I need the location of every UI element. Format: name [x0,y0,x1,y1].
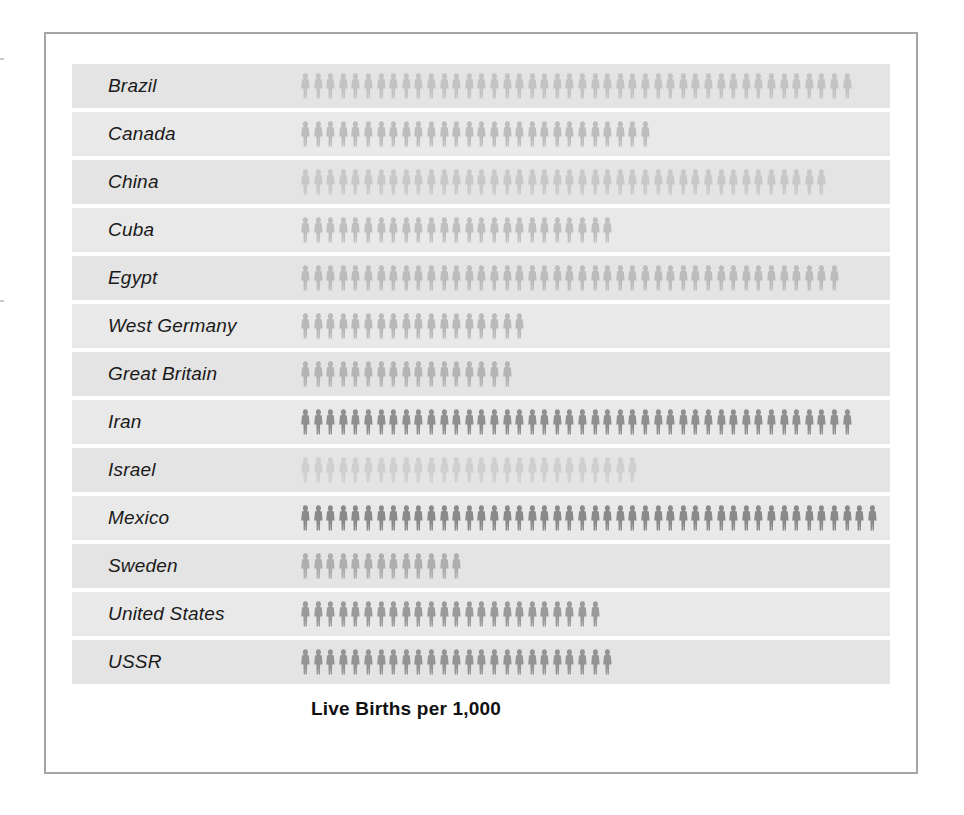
person-icon [741,505,754,531]
person-icon [451,505,464,531]
person-icon [300,649,313,675]
person-icon [791,73,804,99]
person-icon [439,313,452,339]
row-label-great-britain: Great Britain [72,363,300,385]
person-icon [753,73,766,99]
row-label-egypt: Egypt [72,267,300,289]
person-icon [401,553,414,579]
person-icon [489,73,502,99]
person-icon [514,121,527,147]
figure-track [300,496,890,540]
person-icon [564,121,577,147]
person-icon [476,169,489,195]
person-icon [325,73,338,99]
person-icon [502,313,515,339]
person-icon [313,121,326,147]
person-icon [464,505,477,531]
person-icon [464,169,477,195]
person-icon [401,121,414,147]
person-icon [577,409,590,435]
row-label-mexico: Mexico [72,507,300,529]
person-icon [388,313,401,339]
person-icon [426,217,439,243]
pictogram-row: Canada [72,112,890,156]
person-icon [829,73,842,99]
person-icon [539,649,552,675]
person-icon [741,73,754,99]
person-icon [615,409,628,435]
person-icon [753,409,766,435]
person-icon [363,409,376,435]
person-icon [350,73,363,99]
person-icon [514,265,527,291]
person-icon [577,73,590,99]
person-icon [338,457,351,483]
person-icon [842,73,855,99]
person-icon [325,265,338,291]
person-icon [564,649,577,675]
pictogram-row: Sweden [72,544,890,588]
person-icon [552,409,565,435]
person-icon [728,409,741,435]
person-icon [842,505,855,531]
person-icon [350,313,363,339]
person-icon [489,265,502,291]
person-icon [489,649,502,675]
person-icon [564,73,577,99]
person-icon [413,649,426,675]
person-icon [627,73,640,99]
person-icon [376,553,389,579]
figure-track [300,352,890,396]
figure-track [300,208,890,252]
person-icon [653,73,666,99]
person-icon [615,265,628,291]
person-icon [728,73,741,99]
person-icon [766,265,779,291]
person-icon [350,409,363,435]
person-icon [615,169,628,195]
person-icon [829,265,842,291]
person-icon [753,265,766,291]
person-icon [300,553,313,579]
person-icon [590,217,603,243]
figure-track [300,400,890,444]
person-icon [577,121,590,147]
person-icon [338,313,351,339]
person-icon [401,265,414,291]
person-icon [451,457,464,483]
person-icon [527,121,540,147]
person-icon [439,409,452,435]
person-icon [401,217,414,243]
person-icon [791,505,804,531]
person-icon [413,313,426,339]
person-icon [539,457,552,483]
person-icon [590,121,603,147]
person-icon [300,505,313,531]
person-icon [313,169,326,195]
person-icon [451,217,464,243]
person-icon [426,361,439,387]
person-icon [464,457,477,483]
chart-frame: BrazilCanadaChinaCubaEgyptWest GermanyGr… [44,32,918,774]
person-icon [804,505,817,531]
person-icon [376,265,389,291]
person-icon [552,217,565,243]
person-icon [552,457,565,483]
person-icon [678,265,691,291]
person-icon [426,601,439,627]
person-icon [363,505,376,531]
person-icon [703,505,716,531]
person-icon [388,601,401,627]
person-icon [602,169,615,195]
person-icon [816,265,829,291]
person-icon [338,265,351,291]
person-icon [564,265,577,291]
person-icon [678,409,691,435]
person-icon [590,169,603,195]
person-icon [300,169,313,195]
person-icon [640,265,653,291]
person-icon [816,169,829,195]
person-icon [577,457,590,483]
person-icon [413,409,426,435]
person-icon [426,73,439,99]
